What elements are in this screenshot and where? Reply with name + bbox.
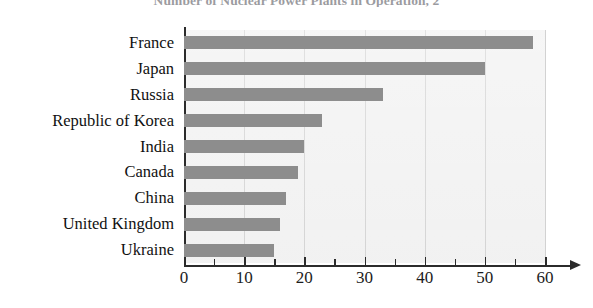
x-tick-minor <box>455 259 456 265</box>
x-tick-major <box>425 257 427 265</box>
category-label: Ukraine <box>0 240 178 260</box>
x-tick-label: 40 <box>405 268 445 288</box>
x-tick-minor <box>395 259 396 265</box>
x-tick-major <box>365 257 367 265</box>
x-tick-minor <box>274 259 275 265</box>
x-axis-line <box>184 265 573 267</box>
x-tick-label: 50 <box>465 268 505 288</box>
x-tick-minor <box>214 259 215 265</box>
category-label: India <box>0 137 178 157</box>
category-label: China <box>0 188 178 208</box>
x-tick-label: 10 <box>224 268 264 288</box>
bar <box>184 218 280 231</box>
bar <box>184 88 383 101</box>
x-tick-label: 30 <box>345 268 385 288</box>
x-tick-label: 0 <box>164 268 204 288</box>
category-label: Republic of Korea <box>0 111 178 131</box>
category-label: Japan <box>0 59 178 79</box>
x-tick-major <box>184 257 186 265</box>
bar <box>184 62 485 75</box>
category-label: France <box>0 33 178 53</box>
x-tick-label: 20 <box>284 268 324 288</box>
gridline <box>545 30 546 263</box>
bar <box>184 192 286 205</box>
bar <box>184 114 322 127</box>
bar-chart-figure: Number of Nuclear Power Plants in Operat… <box>0 0 593 308</box>
x-tick-minor <box>515 259 516 265</box>
x-tick-major <box>545 257 547 265</box>
category-label: Russia <box>0 85 178 105</box>
x-tick-major <box>304 257 306 265</box>
bar <box>184 244 274 257</box>
category-label: United Kingdom <box>0 214 178 234</box>
bar <box>184 166 298 179</box>
x-tick-major <box>244 257 246 265</box>
x-axis-arrow-icon <box>570 260 581 270</box>
x-tick-major <box>485 257 487 265</box>
gridline <box>485 30 486 263</box>
bar <box>184 36 533 49</box>
chart-title: Number of Nuclear Power Plants in Operat… <box>0 0 593 7</box>
category-label: Canada <box>0 162 178 182</box>
bar <box>184 140 304 153</box>
x-tick-minor <box>334 259 335 265</box>
x-tick-label: 60 <box>525 268 565 288</box>
